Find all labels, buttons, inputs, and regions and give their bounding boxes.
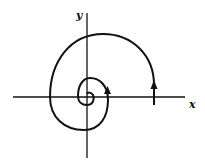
- x-axis-label: x: [188, 98, 196, 111]
- y-axis-label: y: [75, 9, 84, 22]
- spiral-trajectory: [50, 34, 154, 130]
- arrow-outer-icon: [151, 80, 158, 89]
- spiral-diagram: y x: [0, 0, 205, 167]
